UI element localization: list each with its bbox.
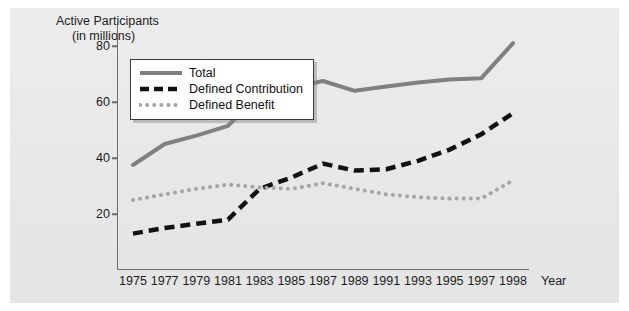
y-tick-label: 40 bbox=[76, 151, 110, 165]
legend-item[interactable]: Total bbox=[139, 65, 303, 81]
legend-swatch-dotted-icon bbox=[139, 99, 183, 111]
legend-label: Total bbox=[189, 66, 215, 80]
x-tick-label: 1985 bbox=[277, 274, 305, 288]
x-tick-label: 1997 bbox=[467, 274, 495, 288]
x-tick-label: 1987 bbox=[309, 274, 337, 288]
x-tick-label: 1991 bbox=[372, 274, 400, 288]
x-tick-label: 1993 bbox=[404, 274, 432, 288]
series-line bbox=[133, 113, 513, 233]
x-tick-label: 1981 bbox=[214, 274, 242, 288]
legend-item[interactable]: Defined Benefit bbox=[139, 97, 303, 113]
y-axis-tick-labels: 20406080 bbox=[70, 18, 110, 270]
series-line bbox=[133, 180, 513, 200]
x-tick-label: 1995 bbox=[436, 274, 464, 288]
chart-legend: TotalDefined ContributionDefined Benefit bbox=[130, 59, 314, 120]
y-tick-mark bbox=[112, 157, 117, 159]
y-tick-label: 60 bbox=[76, 95, 110, 109]
legend-label: Defined Benefit bbox=[189, 98, 274, 112]
x-tick-label: 1975 bbox=[119, 274, 147, 288]
x-axis-tick-labels: 1975197719791981198319851987198919911993… bbox=[117, 274, 529, 292]
legend-swatch-solid-icon bbox=[139, 67, 183, 79]
plot-area bbox=[117, 18, 529, 270]
y-tick-mark bbox=[112, 45, 117, 47]
x-tick-label: 1998 bbox=[499, 274, 527, 288]
y-tick-label: 80 bbox=[76, 39, 110, 53]
y-tick-mark bbox=[112, 101, 117, 103]
series-layer bbox=[117, 18, 529, 270]
x-tick-label: 1979 bbox=[182, 274, 210, 288]
x-axis-title: Year bbox=[541, 274, 566, 288]
x-tick-label: 1977 bbox=[151, 274, 179, 288]
legend-label: Defined Contribution bbox=[189, 82, 303, 96]
legend-swatch-dashed-icon bbox=[139, 83, 183, 95]
x-tick-label: 1989 bbox=[341, 274, 369, 288]
legend-item[interactable]: Defined Contribution bbox=[139, 81, 303, 97]
x-tick-label: 1983 bbox=[246, 274, 274, 288]
y-tick-mark bbox=[112, 213, 117, 215]
chart-figure: Active Participants (in millions) 204060… bbox=[0, 0, 629, 311]
y-tick-label: 20 bbox=[76, 207, 110, 221]
